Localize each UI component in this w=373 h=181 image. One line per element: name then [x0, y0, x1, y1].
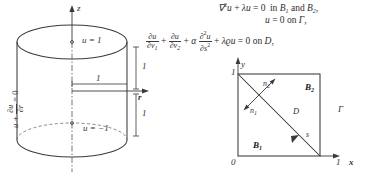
top-face-condition-label: u = 1: [82, 35, 102, 45]
lateral-denominator: ∂r: [16, 104, 25, 114]
eq3-frac1-den-sub: 1: [155, 45, 158, 51]
lateral-lead: u +: [10, 116, 20, 128]
eq3-frac2-num: ∂u: [169, 33, 182, 41]
eq1-comma: ,: [316, 3, 318, 13]
eq3-frac2-den-wrap: ∂ν2: [169, 41, 182, 51]
lateral-tail: = 0: [10, 91, 20, 102]
r-axis-label: r: [138, 92, 142, 102]
eq3-frac3-den-wrap: ∂s2: [199, 41, 212, 53]
y-tick-label: 1: [231, 67, 236, 77]
eq1-u2: u: [246, 3, 251, 13]
eq3-fraction-3: ∂2u ∂s2: [199, 30, 212, 54]
lower-height-label: 1: [142, 108, 147, 118]
eq3-plus-2: +: [184, 36, 189, 46]
y-axis-arrowhead: [236, 57, 241, 64]
normal-n2-sub: 2: [267, 83, 270, 89]
origin-label: 0: [231, 157, 236, 167]
eq2-u: u: [265, 15, 270, 25]
r-axis-arrowhead: [142, 88, 149, 93]
bottom-face-condition-label: u = −1: [83, 123, 109, 133]
eq2-on: on: [287, 15, 297, 25]
region-b1-sub: 1: [259, 145, 262, 151]
normal-n1-sub: 1: [254, 110, 257, 116]
eq3-frac2-den-sub: 2: [177, 45, 180, 51]
eq3-u: u: [231, 36, 236, 46]
eq3-frac2-den: ∂ν: [170, 41, 178, 50]
region-b1-label: B1: [253, 140, 262, 151]
equation-line-1: ∇2u + λu = 0 in B1 and B2,: [218, 2, 318, 14]
lateral-fraction: ∂u ∂r: [7, 104, 25, 114]
z-axis-label: z: [77, 3, 81, 13]
x-tick-label: 1: [336, 157, 341, 167]
eq1-u1: u: [227, 3, 232, 13]
arc-length-label: s: [306, 130, 309, 139]
boundary-gamma-label: Γ: [338, 104, 343, 114]
normal-n2-label: n2: [263, 79, 270, 89]
eq3-frac3-den-sup: 2: [207, 42, 210, 48]
eq2-equals: = 0: [272, 15, 284, 25]
eq1-in: in: [270, 3, 277, 13]
y-axis-label: y: [241, 59, 245, 69]
eq3-frac1-den: ∂ν: [147, 41, 155, 50]
diagonal-label: D: [293, 106, 299, 116]
eq3-frac3-num-wrap: ∂2u: [199, 30, 212, 41]
lateral-condition-label: u + ∂u ∂r = 0: [4, 91, 25, 129]
eq1-and: and: [291, 3, 305, 13]
eq3-plus-3: +: [214, 36, 219, 46]
radius-label: 1: [96, 73, 101, 83]
equation-line-3: ∂u ∂ν1 + ∂u ∂ν2 + α ∂2u ∂s2 + λϱu = 0 on…: [146, 30, 274, 54]
eq3-fraction-2: ∂u ∂ν2: [169, 33, 182, 52]
eq3-frac1-den-wrap: ∂ν1: [146, 41, 159, 51]
eq3-comma: ,: [271, 36, 273, 46]
z-axis-arrowhead: [69, 5, 74, 12]
square-drawing: [203, 56, 373, 181]
eq3-on: on: [253, 36, 263, 46]
arc-length-direction-arrowhead: [291, 135, 299, 143]
eq3-equals: = 0: [238, 36, 250, 46]
figure-canvas: z r u = 1 u = −1 1 1 1 u + ∂u ∂r = 0 ∇2u…: [0, 0, 373, 181]
eq3-frac3-num-u: u: [207, 32, 211, 41]
eq1-region-b1-sub: 1: [286, 8, 289, 14]
eq3-frac1-num: ∂u: [146, 33, 159, 41]
equation-line-2: u = 0 on Γ,: [265, 15, 307, 25]
eq3-plus-1: +: [161, 36, 166, 46]
upper-height-brace: [133, 47, 139, 89]
x-axis-label: x: [349, 157, 354, 167]
region-b2-label: B2: [305, 82, 314, 93]
region-b2-sub: 2: [311, 87, 314, 93]
eq1-plus: +: [234, 3, 239, 13]
eq1-equals: = 0: [253, 3, 265, 13]
eq3-alpha: α: [191, 36, 196, 46]
eq3-fraction-1: ∂u ∂ν1: [146, 33, 159, 52]
upper-height-label: 1: [142, 61, 147, 71]
normal-n1-label: n1: [250, 106, 257, 116]
eq2-comma: ,: [304, 15, 306, 25]
lateral-numerator: ∂u: [7, 104, 15, 114]
